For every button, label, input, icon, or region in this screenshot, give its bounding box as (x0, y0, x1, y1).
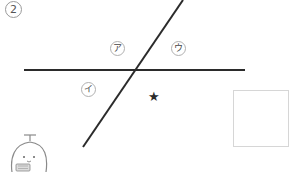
diagonal-line (83, 0, 183, 147)
answer-box[interactable] (233, 90, 289, 147)
worksheet-diagram: 2 ア ウ イ ★ (0, 0, 290, 172)
angle-label-a: ア (110, 41, 125, 56)
angle-label-u: ウ (171, 41, 186, 56)
angle-label-i: イ (81, 82, 96, 97)
star-icon: ★ (148, 90, 160, 103)
mascot-icon (2, 130, 52, 172)
